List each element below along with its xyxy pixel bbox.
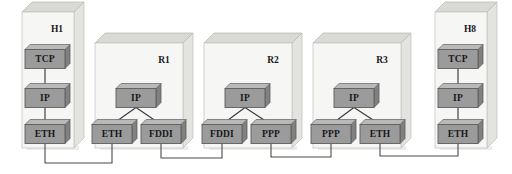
node-label-r3-eth: ETH — [370, 129, 391, 139]
node-label-h8-eth: ETH — [448, 129, 469, 139]
node-label-r1-ip: IP — [131, 93, 141, 103]
diagram-canvas: H1R1R2R3H8 TCPIPETHIPETHFDDIIPFDDIPPPIPP… — [0, 0, 512, 174]
node-top-face — [438, 84, 483, 89]
node-top-face — [311, 120, 356, 125]
node-top-face — [251, 120, 296, 125]
node-label-r2-fddi: FDDI — [210, 129, 234, 139]
protocol-node-h8-ip[interactable]: IP — [438, 84, 483, 108]
protocol-node-r2-ip[interactable]: IP — [225, 84, 270, 108]
node-top-face — [141, 120, 186, 125]
panel-top-face — [435, 2, 497, 12]
protocol-node-r1-eth[interactable]: ETH — [92, 120, 137, 144]
panel-side-face — [74, 2, 84, 148]
protocol-node-h1-eth[interactable]: ETH — [25, 120, 70, 144]
panel-label-r2: R2 — [267, 55, 279, 65]
node-top-face — [92, 120, 137, 125]
node-label-h1-eth: ETH — [35, 129, 56, 139]
node-top-face — [438, 45, 483, 50]
panel-label-h1: H1 — [51, 24, 63, 34]
protocol-node-r3-ip[interactable]: IP — [334, 84, 379, 108]
node-label-h8-tcp: TCP — [448, 54, 468, 64]
node-top-face — [25, 45, 70, 50]
node-top-face — [25, 120, 70, 125]
protocol-node-h1-ip[interactable]: IP — [25, 84, 70, 108]
panel-side-face — [487, 2, 497, 148]
node-top-face — [225, 84, 270, 89]
node-label-r2-ppp: PPP — [262, 129, 280, 139]
panel-top-face — [22, 2, 84, 12]
protocol-node-r3-eth[interactable]: ETH — [360, 120, 405, 144]
node-top-face — [360, 120, 405, 125]
node-label-r1-eth: ETH — [102, 129, 123, 139]
protocol-node-h8-tcp[interactable]: TCP — [438, 45, 483, 69]
protocol-node-r1-fddi[interactable]: FDDI — [141, 120, 186, 144]
protocol-node-r1-ip[interactable]: IP — [116, 84, 161, 108]
panel-top-face — [95, 33, 193, 43]
panel-label-r3: R3 — [376, 55, 388, 65]
node-top-face — [116, 84, 161, 89]
network-protocol-stack-diagram: H1R1R2R3H8 TCPIPETHIPETHFDDIIPFDDIPPPIPP… — [0, 0, 512, 174]
protocol-node-r2-fddi[interactable]: FDDI — [202, 120, 247, 144]
protocol-node-h1-tcp[interactable]: TCP — [25, 45, 70, 69]
panel-top-face — [204, 33, 302, 43]
node-label-r3-ip: IP — [349, 93, 359, 103]
node-label-h1-ip: IP — [40, 93, 50, 103]
node-label-r3-ppp: PPP — [322, 129, 340, 139]
node-label-r1-fddi: FDDI — [149, 129, 173, 139]
protocol-node-r2-ppp[interactable]: PPP — [251, 120, 296, 144]
panel-top-face — [313, 33, 411, 43]
node-label-r2-ip: IP — [240, 93, 250, 103]
node-top-face — [438, 120, 483, 125]
node-top-face — [334, 84, 379, 89]
panel-label-h8: H8 — [464, 24, 476, 34]
node-top-face — [202, 120, 247, 125]
protocol-node-h8-eth[interactable]: ETH — [438, 120, 483, 144]
node-top-face — [25, 84, 70, 89]
node-label-h1-tcp: TCP — [35, 54, 55, 64]
protocol-node-r3-ppp[interactable]: PPP — [311, 120, 356, 144]
node-label-h8-ip: IP — [453, 93, 463, 103]
panel-label-r1: R1 — [158, 55, 170, 65]
